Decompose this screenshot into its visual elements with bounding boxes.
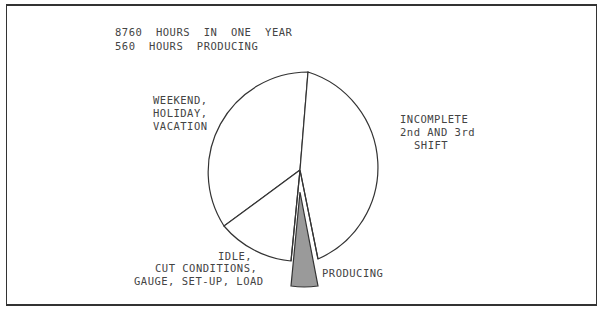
label-incomplete-line1: INCOMPLETE (400, 113, 468, 126)
chart-title: 8760 HOURS IN ONE YEAR (115, 26, 292, 39)
label-weekend-line1: WEEKEND, (153, 94, 208, 107)
label-weekend-line3: VACATION (153, 120, 208, 133)
label-weekend-line2: HOLIDAY, (153, 107, 208, 120)
label-incomplete-line3: SHIFT (414, 139, 448, 152)
slice-incomplete-shift (300, 72, 378, 259)
label-producing: PRODUCING (322, 267, 383, 280)
chart-subtitle: 560 HOURS PRODUCING (115, 40, 258, 53)
label-incomplete-line2: 2nd AND 3rd (400, 126, 475, 139)
label-idle-line2: CUT CONDITIONS, (155, 262, 257, 275)
pie-chart (0, 0, 605, 312)
label-idle-line3: GAUGE, SET-UP, LOAD (134, 275, 264, 288)
